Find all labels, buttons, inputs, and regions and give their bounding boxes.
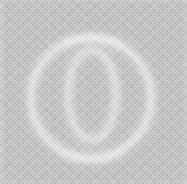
background-dither-coarse (0, 0, 187, 184)
image-canvas: Soft-focus white outline drawing of two … (0, 0, 187, 184)
